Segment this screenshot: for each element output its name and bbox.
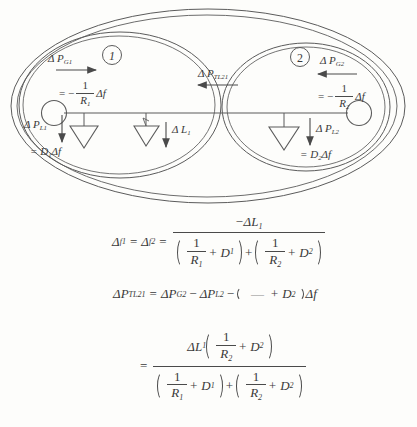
tie-line-label: Δ PTL21 xyxy=(198,67,228,80)
paren-right-icon xyxy=(264,330,272,363)
eq1-paren-group-a: 1 R1 + D1 xyxy=(177,236,242,269)
paren-right-icon xyxy=(215,370,223,403)
generator-1-fraction: 1 R1 xyxy=(76,80,94,107)
eq3-den-paren-group-a: 1 R1 + D1 xyxy=(157,370,222,403)
equation-3: = ΔL1 1 R2 + D2 1 xyxy=(140,330,308,402)
system-diagram: 1 2 Δ PG1 = − 1 R1 Δf Δ PL1 = D1Δf Δ L1 … xyxy=(0,0,417,215)
paren-right-icon xyxy=(294,370,302,403)
paren-left-icon xyxy=(255,236,263,269)
equation-1-fraction: −ΔL1 1 R1 + D1 + 1 R2 xyxy=(173,215,325,269)
eq2-faded-fraction: — xyxy=(247,287,268,302)
equation-3-denominator: 1 R1 + D1 + 1 R2 + D2 xyxy=(153,366,305,403)
eq1-paren-group-b: 1 R2 + D2 xyxy=(255,236,320,269)
equation-3-numerator: ΔL1 1 R2 + D2 xyxy=(183,330,275,366)
paren-left-icon xyxy=(177,236,185,269)
equation-2: ΔPTL21 = ΔPG2 − ΔPL2 − — + D2 Δf xyxy=(113,286,317,302)
area-1-number: 1 xyxy=(109,49,115,63)
equation-3-fraction: ΔL1 1 R2 + D2 1 R1 xyxy=(153,330,305,402)
paren-left-icon xyxy=(157,370,165,403)
load-2-value: = D2Δf xyxy=(300,148,331,161)
load-1-label: Δ PL1 xyxy=(24,118,47,131)
eq2-paren-group: — + D2 xyxy=(237,286,303,302)
equation-1-denominator: 1 R1 + D1 + 1 R2 + D2 xyxy=(173,232,325,269)
disturbance-load-label: Δ L1 xyxy=(172,123,191,136)
equation-block: Δf1 = Δf2 = −ΔL1 1 R1 + D1 + xyxy=(0,208,417,427)
paren-left-icon xyxy=(236,370,244,403)
paren-right-icon xyxy=(296,286,304,302)
eq3-num-paren-group: 1 R2 + D2 xyxy=(206,330,271,363)
paren-left-icon xyxy=(237,286,245,302)
equation-1: Δf1 = Δf2 = −ΔL1 1 R1 + D1 + xyxy=(112,215,327,269)
paren-left-icon xyxy=(206,330,214,363)
generator-1-label: Δ PG1 xyxy=(48,52,72,65)
disturbance-load-triangle xyxy=(134,126,159,146)
load-2-triangle xyxy=(269,127,299,150)
generator-2-fraction: 1 R2 xyxy=(335,83,353,110)
area-2-number: 2 xyxy=(297,51,303,65)
generator-2-value: = − 1 R2 Δf xyxy=(318,83,365,110)
eq3-den-paren-group-b: 1 R2 + D2 xyxy=(236,370,301,403)
generator-1-value: = − 1 R1 Δf xyxy=(59,80,106,107)
paren-right-icon xyxy=(313,236,321,269)
load-1-triangle xyxy=(70,126,98,148)
load-1-value: = D1Δf xyxy=(30,145,61,158)
paren-right-icon xyxy=(234,236,242,269)
generator-2-label: Δ PG2 xyxy=(320,54,344,67)
equation-1-numerator: −ΔL1 xyxy=(231,215,267,232)
load-2-label: Δ PL2 xyxy=(316,122,339,135)
